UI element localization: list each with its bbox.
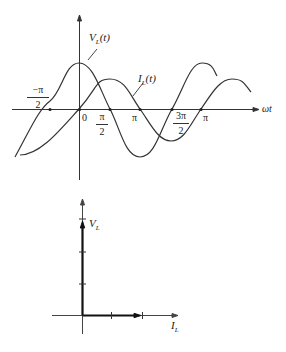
phasor-v-vector <box>80 221 84 315</box>
phasor-ticks <box>79 219 143 319</box>
voltage-label-leader <box>88 49 97 60</box>
x-axis-label: ωt <box>262 104 272 114</box>
phasor-axes <box>52 199 178 334</box>
i-argument: (t) <box>146 72 156 84</box>
tick-label-pi: π <box>132 113 137 123</box>
tick-label-half-pi: π 2 <box>96 112 108 137</box>
frac-den: 2 <box>179 125 184 136</box>
tick-label-zero: 0 <box>82 113 87 123</box>
frac-num: π <box>99 111 104 122</box>
tick-label-three-half-pi: 3π 2 <box>173 111 189 136</box>
frac-num: −π <box>33 84 44 95</box>
phasor-v-symbol: V <box>89 217 96 229</box>
v-symbol: V <box>89 31 96 43</box>
frac-den: 2 <box>100 126 105 137</box>
voltage-curve-label: VL(t) <box>89 32 110 46</box>
waveform-axes <box>12 15 259 180</box>
frac-den: 2 <box>36 99 41 110</box>
tick-label-pi-2: π <box>203 113 208 123</box>
diagram-canvas <box>0 0 286 352</box>
phasor-v-label: VL <box>89 218 100 232</box>
current-curve-label: IL(t) <box>138 73 156 87</box>
frac-num: 3π <box>176 110 186 121</box>
phasor-v-subscript: L <box>96 224 100 232</box>
v-argument: (t) <box>100 31 110 43</box>
tick-label-neg-half-pi: −π 2 <box>27 85 49 110</box>
phasor-i-subscript: L <box>175 326 179 334</box>
phasor-i-label: IL <box>171 320 179 334</box>
